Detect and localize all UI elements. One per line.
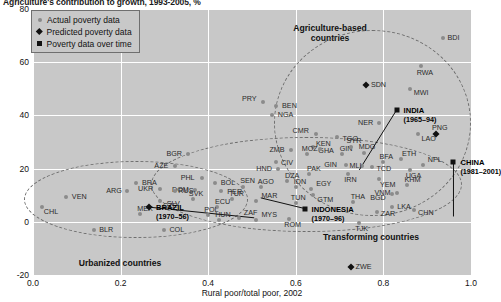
point-label-idn: IDN [294,178,306,185]
urbanized-group-line1: Urbanized countries [79,258,162,268]
chart-legend: Actual poverty data Predicted poverty da… [31,10,140,53]
point-label-phl: PHL [181,174,195,181]
point-label-brazil-0: BRAZIL [156,204,184,212]
point-label-india-1: (1965–94) [404,116,437,123]
transforming-group-line1: Transforming countries [323,232,419,242]
point-label-npl: NPL [428,156,442,163]
legend-item-actual: Actual poverty data [37,14,132,25]
data-point-bgr [186,152,190,156]
point-label-rom: ROM [284,221,301,228]
data-point-vnm [395,191,399,195]
data-point-cmr [314,132,318,136]
data-point-gin2 [344,163,348,167]
point-label-brazil-1: (1970–56) [156,213,189,220]
point-label-india-0: INDIA [404,107,425,115]
data-point-cze [158,199,162,203]
data-point-china [451,159,456,164]
point-label-ben: BEN [282,102,297,109]
data-point-tcd [370,165,374,169]
circle-icon [38,18,42,22]
square-icon [37,41,42,46]
data-point-zar [375,210,379,214]
data-point-hnd [276,167,280,171]
urbanized-group: Urbanized countries [79,258,162,268]
point-label-bol: BOL [221,179,235,186]
data-point-tgo [335,135,339,139]
data-point-bdi [441,36,445,40]
data-point-gtm [311,193,315,197]
transforming-group: Transforming countries [323,232,419,242]
data-point-pry [261,100,265,104]
point-label-pry: PRY [242,95,257,102]
x-tick-0.0: 0.0 [27,278,39,288]
point-label-tjk: TJK [355,225,368,232]
data-point-civ [274,160,278,164]
point-label-mli: MLI [350,162,362,169]
data-point-mdg [362,151,366,155]
point-label-tha: THA [351,193,365,200]
x-tick-0.8: 0.8 [377,278,389,288]
data-point-bol [213,181,217,185]
data-point-col [162,228,166,232]
data-point-ukr [158,187,162,191]
point-label-tun: TUN [291,194,306,201]
point-label-zar: ZAR [381,210,395,217]
point-label-nga: NGA [278,111,294,118]
point-label-indonesia-0: INDONESIA [312,206,354,214]
point-label-col: COL [169,226,184,233]
data-point-ben [274,104,278,108]
point-label-zmb: ZMB [269,146,284,153]
point-label-lka: LKA [397,203,411,210]
point-label-ven: VEN [72,193,87,200]
point-label-china-0: CHINA [460,159,484,167]
point-label-arg: ARG [106,187,122,194]
data-point-aze [173,164,177,168]
data-point-syr [349,145,353,149]
point-label-bdi: BDI [448,34,460,41]
data-point-hun [217,218,221,222]
data-point-zaf [237,216,241,220]
point-label-png: PNG [432,124,448,131]
point-label-irn: IRN [344,176,356,183]
point-label-mwi: MWI [414,89,429,96]
point-label-chn: CHN [418,209,434,216]
point-label-tcd: TCD [376,165,391,172]
point-label-china-1: (1981–2001) [460,168,501,175]
point-label-civ: CIV [281,159,293,166]
point-label-hnd: HND [256,165,272,172]
point-label-mdg: MDG [359,143,376,150]
data-point-ven [64,195,68,199]
point-label-bfa: BFA [379,153,393,160]
data-point-mys [254,218,258,222]
point-label-khm: KHM [404,176,420,183]
data-point-chn [412,208,416,212]
point-label-gin2: GIN [324,161,337,168]
point-label-eth: ETH [402,150,416,157]
point-label-zaf: ZAF [244,209,258,216]
data-point-blr [92,228,96,232]
point-label-indonesia-1: (1970–96) [312,215,345,222]
point-label-chl: CHL [44,208,58,215]
point-label-bgd: BGD [370,194,386,201]
point-label-zwe: ZWE [356,263,372,270]
point-label-sen: SEN [240,177,255,184]
point-label-mar: MAR [261,192,277,199]
point-label-ukr: UKR [138,185,153,192]
point-label-mys: MYS [261,211,277,218]
point-label-cmr: CMR [293,127,309,134]
point-label-blr: BLR [99,226,113,233]
legend-label-predicted: Predicted poverty data [47,27,132,37]
x-tick-0.2: 0.2 [115,278,127,288]
data-point-zmb [289,148,293,152]
data-point-lao [416,132,420,136]
point-label-aze: AZE [154,162,168,169]
data-point-mwi [408,87,412,91]
x-tick-1.0: 1.0 [465,278,477,288]
data-point-rus [173,189,177,193]
point-label-pak: PAK [307,165,321,172]
point-label-ner: NER [358,119,373,126]
point-label-sdn: SDN [371,81,386,88]
legend-label-overtime: Poverty data over time [47,39,132,49]
data-point-bgd [390,192,394,196]
